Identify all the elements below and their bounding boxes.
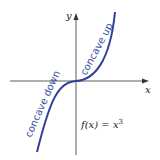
y-axis-arrow-icon bbox=[74, 13, 79, 20]
x-axis-arrow-icon bbox=[142, 79, 149, 84]
concave-up-label: concave up bbox=[78, 21, 115, 77]
x-axis-label: x bbox=[145, 84, 151, 95]
function-label: f(x) = x3 bbox=[80, 118, 123, 130]
y-axis-label: y bbox=[65, 10, 72, 21]
cubic-graph: y x concave up concave down f(x) = x3 bbox=[0, 0, 160, 160]
